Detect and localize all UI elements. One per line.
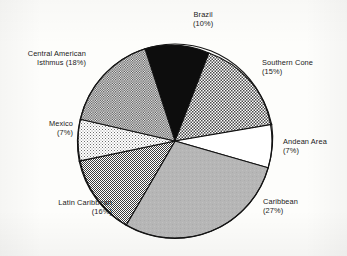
pie-chart: Brazil (10%) Southern Cone (15%) Andean … [0,0,347,256]
pie-label-latin-caribbean-value: (16%) [40,207,112,216]
pie-label-southern-cone-name: Southern Cone [262,58,313,67]
pie-label-brazil: Brazil (10%) [193,10,213,28]
pie-label-latin-caribbean-name: Latin Caribbean [58,198,112,207]
pie-label-latin-caribbean: Latin Caribbean (16%) [40,198,112,216]
pie-label-caribbean: Caribbean (27%) [263,197,298,215]
pie-label-mexico-name: Mexico [49,119,73,128]
pie-label-andean-area-value: (7%) [283,146,327,155]
pie-label-central-american-isthmus-name: Central American [28,49,86,58]
pie-label-central-american-isthmus-value: Isthmus (18%) [8,58,86,67]
pie-label-caribbean-name: Caribbean [263,197,298,206]
pie-label-southern-cone-value: (15%) [262,67,313,76]
pie-label-andean-area: Andean Area (7%) [283,137,327,155]
pie-label-brazil-name: Brazil [194,10,213,19]
pie-label-central-american-isthmus: Central American Isthmus (18%) [8,49,86,67]
pie-label-andean-area-name: Andean Area [283,137,327,146]
pie-label-caribbean-value: (27%) [263,206,298,215]
pie-label-southern-cone: Southern Cone (15%) [262,58,313,76]
pie-label-brazil-value: (10%) [193,19,213,28]
pie-label-mexico: Mexico (7%) [29,119,73,137]
pie-label-mexico-value: (7%) [29,128,73,137]
